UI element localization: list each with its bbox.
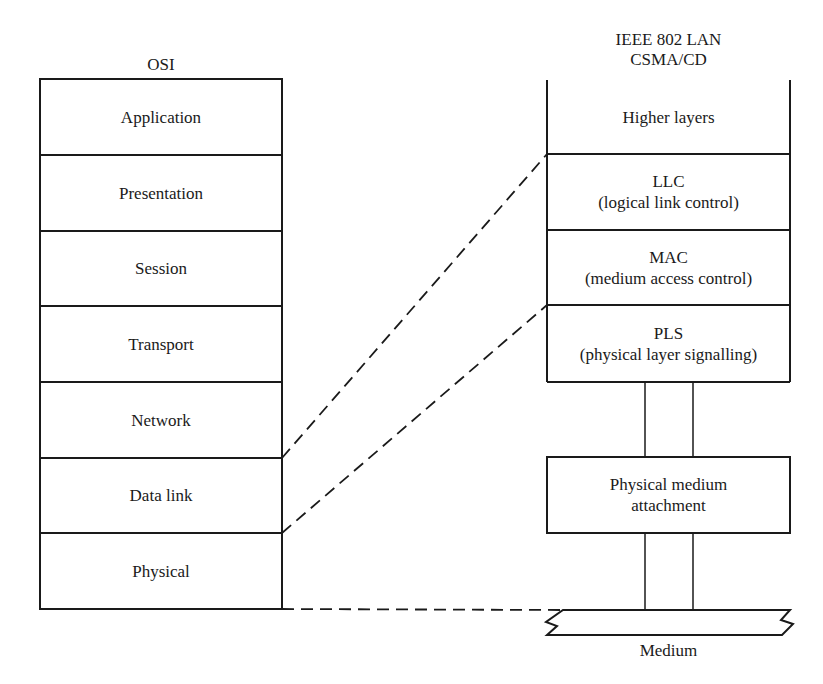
layer-desc: (medium access control) bbox=[585, 268, 752, 289]
ieee-title-line1: IEEE 802 LAN bbox=[547, 30, 790, 50]
osi-layer-presentation: Presentation bbox=[40, 155, 282, 231]
layer-label: Data link bbox=[130, 485, 193, 506]
layer-label: LLC bbox=[652, 171, 684, 192]
layer-label: PLS bbox=[654, 323, 683, 344]
ieee-higher-layers: Higher layers bbox=[547, 80, 790, 154]
medium-label: Medium bbox=[547, 641, 790, 661]
layer-label: MAC bbox=[649, 247, 688, 268]
layer-label: Network bbox=[131, 410, 190, 431]
osi-layer-physical: Physical bbox=[40, 533, 282, 609]
layer-label: Session bbox=[135, 258, 187, 279]
ieee-title-line2: CSMA/CD bbox=[547, 50, 790, 70]
osi-title: OSI bbox=[40, 55, 282, 75]
layer-label: Presentation bbox=[119, 183, 203, 204]
ieee-pma: Physical medium attachment bbox=[547, 457, 790, 533]
layer-desc: (logical link control) bbox=[598, 192, 739, 213]
ieee-llc: LLC (logical link control) bbox=[547, 154, 790, 230]
layer-label: Physical bbox=[132, 561, 190, 582]
osi-layer-transport: Transport bbox=[40, 306, 282, 382]
ieee-pls: PLS (physical layer signalling) bbox=[547, 305, 790, 382]
osi-layer-session: Session bbox=[40, 231, 282, 306]
layer-desc: (physical layer signalling) bbox=[580, 344, 758, 365]
osi-layer-network: Network bbox=[40, 382, 282, 458]
osi-layer-application: Application bbox=[40, 79, 282, 155]
osi-layer-data-link: Data link bbox=[40, 458, 282, 533]
layer-label: Transport bbox=[128, 334, 194, 355]
ieee-mac: MAC (medium access control) bbox=[547, 230, 790, 305]
layer-label: Higher layers bbox=[622, 107, 714, 128]
layer-label: Application bbox=[121, 107, 201, 128]
medium-shape bbox=[546, 610, 793, 635]
pma-line2: attachment bbox=[631, 495, 706, 516]
pma-line1: Physical medium bbox=[610, 474, 728, 495]
ieee-title: IEEE 802 LAN CSMA/CD bbox=[547, 30, 790, 70]
